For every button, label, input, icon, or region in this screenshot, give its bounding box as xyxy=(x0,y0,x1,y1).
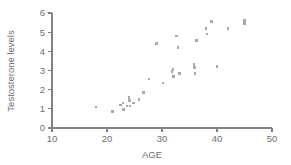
data-point xyxy=(216,65,219,68)
x-tick-label: 20 xyxy=(102,133,113,144)
data-point xyxy=(206,33,209,36)
data-point xyxy=(95,106,98,109)
data-point xyxy=(178,72,181,75)
data-point xyxy=(175,35,178,38)
data-point xyxy=(195,39,198,42)
x-tick-label: 30 xyxy=(157,133,168,144)
data-point xyxy=(193,66,196,69)
data-point xyxy=(111,110,114,113)
data-point xyxy=(172,68,175,71)
data-point xyxy=(155,42,158,45)
data-point xyxy=(243,19,246,22)
data-point xyxy=(132,102,135,105)
y-axis-title: Testosterone levels xyxy=(5,30,16,112)
data-points xyxy=(95,19,246,113)
x-axis-title: AGE xyxy=(142,149,162,160)
plot-canvas: 0123456 1020304050 AGE Testosterone leve… xyxy=(0,0,291,165)
data-point xyxy=(148,78,151,81)
x-tick-label: 50 xyxy=(267,133,278,144)
data-point xyxy=(210,20,213,23)
scatter-plot-figure: 0123456 1020304050 AGE Testosterone leve… xyxy=(0,0,291,165)
data-point xyxy=(122,108,125,111)
data-point xyxy=(142,91,145,94)
y-tick-label: 3 xyxy=(40,65,45,76)
y-tick-label: 6 xyxy=(40,7,45,18)
data-point xyxy=(205,27,208,30)
data-point xyxy=(177,46,180,49)
data-point xyxy=(193,63,196,66)
y-tick-label: 5 xyxy=(40,27,45,38)
x-tick-label: 10 xyxy=(47,133,58,144)
y-tick-label: 2 xyxy=(40,84,45,95)
data-point xyxy=(128,96,131,99)
data-point xyxy=(227,27,230,30)
data-point xyxy=(128,99,131,102)
y-tick-label: 1 xyxy=(40,103,45,114)
x-axis: 1020304050 xyxy=(47,128,278,144)
data-point xyxy=(129,105,132,108)
data-point xyxy=(172,75,175,78)
data-point xyxy=(122,102,125,105)
y-tick-label: 0 xyxy=(40,122,45,133)
data-point xyxy=(194,72,197,75)
y-tick-label: 4 xyxy=(40,46,45,57)
y-axis: 0123456 xyxy=(40,7,52,133)
data-point xyxy=(138,98,141,101)
data-point xyxy=(126,105,129,108)
data-point xyxy=(162,82,165,85)
data-point xyxy=(243,22,246,25)
x-tick-label: 40 xyxy=(212,133,223,144)
data-point xyxy=(119,104,122,107)
